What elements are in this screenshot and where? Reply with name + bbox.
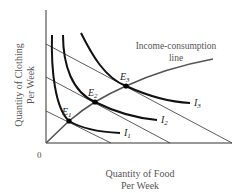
label-i1: I1 (123, 127, 131, 140)
label-e3: E3 (119, 71, 130, 84)
origin-label: 0 (37, 150, 42, 160)
y-axis-label-line1: Quantity of Clothing (13, 43, 24, 126)
label-i2: I2 (160, 114, 168, 127)
income-consumption-line (46, 59, 213, 143)
y-axis-label-line2: Per Week (25, 66, 36, 104)
equilibrium-point-e2 (92, 99, 97, 104)
x-axis-label-line1: Quantity of Food (106, 168, 175, 179)
indifference-curve-1 (52, 35, 120, 133)
label-i3: I3 (193, 97, 201, 110)
budget-line-3 (46, 44, 232, 143)
diagram-canvas: E1 E2 E3 I1 I2 I3 Income-consumption lin… (0, 0, 246, 193)
x-axis-label-line2: Per Week (121, 180, 159, 191)
budget-line-1 (46, 111, 111, 143)
equilibrium-point-e3 (123, 83, 128, 88)
icl-label-line2: line (169, 53, 183, 63)
icl-label-line1: Income-consumption (136, 41, 217, 51)
equilibrium-point-e1 (66, 118, 71, 123)
